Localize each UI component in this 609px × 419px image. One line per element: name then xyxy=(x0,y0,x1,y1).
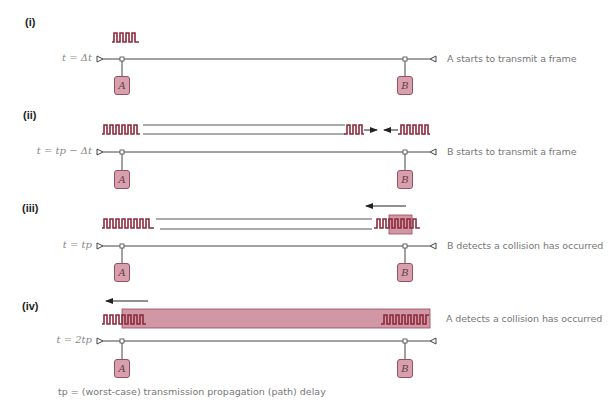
step-label-4: (iv) xyxy=(22,300,39,312)
station-b-node: B xyxy=(397,359,413,378)
step-description-4: A detects a collision has occurred xyxy=(446,313,602,324)
time-label-2: t = tp − Δt xyxy=(12,145,92,156)
station-a-node: A xyxy=(114,170,130,189)
step-description-2: B starts to transmit a frame xyxy=(447,146,576,157)
step-1-graphics xyxy=(97,33,436,76)
signal-waveform-icon xyxy=(112,33,139,42)
time-label-3: t = tp xyxy=(12,239,92,250)
step-description-1: A starts to transmit a frame xyxy=(447,53,576,64)
station-a-node: A xyxy=(114,263,130,282)
signal-waveform-icon xyxy=(102,125,140,134)
station-b-node: B xyxy=(397,76,413,95)
step-label-2: (ii) xyxy=(23,109,36,121)
station-a-node: A xyxy=(114,359,130,378)
step-label-1: (i) xyxy=(25,16,35,28)
step-4-graphics xyxy=(97,301,436,359)
station-a-node: A xyxy=(114,76,130,95)
step-label-3: (iii) xyxy=(22,202,39,214)
time-label-1: t = Δt xyxy=(12,52,92,63)
step-2-graphics xyxy=(97,125,436,170)
step-description-3: B detects a collision has occurred xyxy=(447,240,603,251)
station-b-node: B xyxy=(397,170,413,189)
step-3-graphics xyxy=(97,206,436,263)
time-label-4: t = 2tp xyxy=(12,334,92,345)
footnote: tp = (worst-case) transmission propagati… xyxy=(58,386,326,397)
station-b-node: B xyxy=(397,263,413,282)
